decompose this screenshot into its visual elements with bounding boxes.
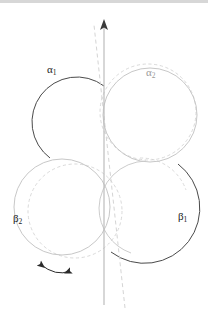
axis-group: [94, 19, 125, 308]
dark-arc-group: [32, 77, 200, 263]
diagram-canvas: [0, 0, 208, 321]
figure-root: α1 α2 β2 β1: [0, 0, 208, 321]
label-beta-1: β1: [178, 211, 187, 223]
alpha1-arc: [32, 77, 104, 158]
label-alpha-1-subscript: 1: [53, 68, 57, 77]
rotation-arrow-group: [40, 264, 70, 273]
alpha2-circle: [103, 68, 197, 162]
grey-circle-group: [14, 68, 197, 255]
label-alpha-2-subscript: 2: [152, 71, 156, 80]
ghost-circle-group: [28, 64, 196, 258]
tilted-dashed-axis: [94, 25, 125, 308]
beta1-ghost-arc: [140, 158, 186, 190]
beta1-grey-arc: [99, 161, 146, 253]
label-beta-2: β2: [13, 213, 22, 225]
label-alpha-2: α2: [146, 67, 156, 79]
label-beta-2-subscript: 2: [19, 217, 23, 226]
label-alpha-1: α1: [47, 64, 57, 76]
label-beta-1-subscript: 1: [184, 215, 188, 224]
beta2-ghost-circle: [28, 164, 122, 258]
rotation-arrow-curve: [40, 264, 70, 273]
